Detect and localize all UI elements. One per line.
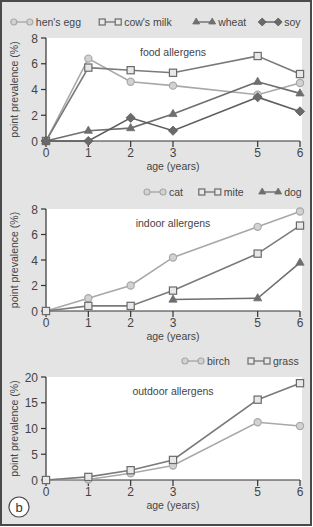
legend-label: grass (273, 355, 299, 367)
x-tick-label: 2 (127, 316, 134, 330)
circle-marker (198, 358, 204, 364)
circle-marker (296, 208, 303, 215)
x-tick-label: 3 (170, 146, 177, 160)
square-marker (215, 189, 221, 195)
circle-marker (85, 55, 92, 62)
square-marker (169, 69, 176, 76)
x-tick-label: 1 (85, 146, 92, 160)
x-tick-label: 6 (297, 146, 304, 160)
circle-marker (144, 189, 150, 195)
x-tick-label: 2 (127, 485, 134, 499)
y-tick-label: 0 (31, 305, 38, 319)
circle-marker (85, 295, 92, 302)
legend-label: wheat (217, 16, 246, 28)
legend-label: cow's milk (124, 16, 172, 28)
square-marker (115, 19, 121, 25)
y-tick-label: 6 (31, 228, 38, 242)
y-tick-label: 8 (31, 203, 38, 217)
square-marker (85, 473, 92, 480)
square-marker (254, 250, 261, 257)
circle-marker (169, 254, 176, 261)
square-marker (296, 70, 303, 77)
chart-title: food allergens (140, 46, 206, 58)
circle-marker (254, 223, 261, 230)
legend-label: hen's egg (36, 16, 81, 28)
square-marker (296, 222, 303, 229)
y-tick-label: 5 (31, 448, 38, 462)
y-tick-label: 15 (25, 396, 39, 410)
x-tick-label: 5 (254, 146, 261, 160)
x-tick-label: 3 (170, 485, 177, 499)
allergen-prevalence-figure: 02468012356age (years)point prevalence (… (0, 0, 313, 527)
y-tick-label: 20 (25, 371, 39, 385)
x-tick-label: 0 (43, 485, 50, 499)
x-tick-label: 3 (170, 316, 177, 330)
circle-marker (182, 358, 188, 364)
x-tick-label: 0 (43, 146, 50, 160)
square-marker (127, 67, 134, 74)
x-axis-label: age (years) (146, 160, 199, 172)
y-tick-label: 8 (31, 32, 38, 46)
y-axis-label: point prevalence (%) (8, 380, 20, 476)
square-marker (169, 287, 176, 294)
y-tick-label: 4 (31, 83, 38, 97)
square-marker (254, 396, 261, 403)
y-axis-label: point prevalence (%) (8, 41, 20, 137)
legend-label: mite (224, 186, 244, 198)
square-marker (127, 467, 134, 474)
x-tick-label: 6 (297, 485, 304, 499)
circle-marker (169, 82, 176, 89)
square-marker (127, 302, 134, 309)
circle-marker (11, 19, 17, 25)
square-marker (254, 52, 261, 59)
x-tick-label: 6 (297, 316, 304, 330)
y-tick-label: 2 (31, 279, 38, 293)
chart-title: indoor allergens (136, 217, 211, 229)
circle-marker (27, 19, 33, 25)
panel-label: b (9, 497, 29, 517)
square-marker (85, 64, 92, 71)
y-axis-label: point prevalence (%) (8, 212, 20, 308)
circle-marker (127, 282, 134, 289)
x-axis-label: age (years) (146, 330, 199, 342)
y-tick-label: 0 (31, 474, 38, 488)
x-tick-label: 0 (43, 316, 50, 330)
legend-label: birch (207, 355, 230, 367)
square-marker (85, 302, 92, 309)
square-marker (248, 358, 254, 364)
square-marker (169, 456, 176, 463)
square-marker (99, 19, 105, 25)
legend-label: dog (284, 186, 302, 198)
square-marker (296, 380, 303, 387)
circle-marker (160, 189, 166, 195)
square-marker (264, 358, 270, 364)
x-tick-label: 1 (85, 316, 92, 330)
x-tick-label: 5 (254, 316, 261, 330)
square-marker (42, 476, 49, 483)
y-tick-label: 2 (31, 109, 38, 123)
y-tick-label: 0 (31, 135, 38, 149)
x-tick-label: 5 (254, 485, 261, 499)
panel-label-text: b (15, 500, 22, 515)
circle-marker (127, 78, 134, 85)
y-tick-label: 10 (25, 422, 39, 436)
circle-marker (296, 422, 303, 429)
y-tick-label: 6 (31, 57, 38, 71)
x-tick-label: 2 (127, 146, 134, 160)
square-marker (199, 189, 205, 195)
circle-marker (254, 419, 261, 426)
x-axis-label: age (years) (146, 499, 199, 511)
y-tick-label: 4 (31, 254, 38, 268)
legend-label: soy (284, 16, 301, 28)
chart-title: outdoor allergens (132, 385, 213, 397)
square-marker (42, 307, 49, 314)
circle-marker (296, 79, 303, 86)
legend-label: cat (169, 186, 183, 198)
x-tick-label: 1 (85, 485, 92, 499)
